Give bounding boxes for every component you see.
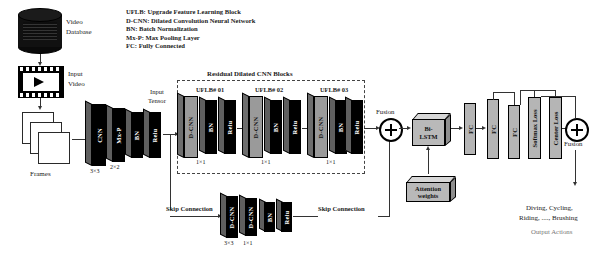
uflb-01-layer-bn-label: BN <box>208 122 215 131</box>
uflb-01-layer-relu-face: Relu <box>224 100 236 154</box>
uflb-01-layer-dcnn-label: D-CNN <box>188 116 195 138</box>
uflb-02-layer-dcnn-label: D-CNN <box>253 116 260 138</box>
stem-block-cnn: CNN <box>92 104 106 166</box>
legend: UFLB: Upgrade Feature Learning Block D-C… <box>126 8 255 51</box>
uflb-02-layer-dcnn: D-CNN <box>249 96 263 158</box>
uflb-01-layer-dcnn: D-CNN <box>184 96 198 158</box>
stem-block-cnn-side <box>85 101 92 166</box>
fc2-to-fc3-top-line <box>493 92 514 93</box>
cylinder-texture <box>23 22 57 40</box>
skip-block-dcnn-2-label: D-CNN <box>248 206 255 228</box>
fusion-2-label: Fusion <box>564 140 583 147</box>
video-database-label-1: Video <box>66 18 83 26</box>
input-video-label-2: Video <box>68 80 85 88</box>
cylinder-top <box>18 8 62 22</box>
uflb-02-layer-bn-label: BN <box>273 122 280 131</box>
softmax-loss-block: Softmax Loss <box>528 97 541 159</box>
uflb-01-layer-dcnn-side <box>177 93 184 158</box>
fc-1-label: FC <box>466 125 473 134</box>
skip-block-relu-label: Relu <box>283 210 290 224</box>
skip-block-relu: Relu <box>281 202 292 232</box>
uflb-03-layer-bn-label: BN <box>338 122 345 131</box>
center-loss-label: Center Loss <box>552 111 559 145</box>
uflb-03-kernel: 1×1 <box>326 159 335 165</box>
attention-weights-face: Attention weights <box>406 182 450 202</box>
softmax-drop <box>534 90 535 97</box>
film-perforations-bottom <box>20 93 62 97</box>
uflb-02-layer-bn-face: BN <box>270 100 282 154</box>
fc2-top-riser <box>493 92 494 100</box>
play-icon <box>34 77 44 87</box>
output-actions-line-1: Diving, Cycling, <box>526 204 573 212</box>
uflb-01-kernel: 1×1 <box>196 159 205 165</box>
output-actions-line-2: Riding, ...., Brushing <box>519 214 578 222</box>
output-actions-caption: Output Actions <box>531 228 572 235</box>
stem-block-relu-face: Relu <box>149 112 161 158</box>
attention-weights-block: Attention weights <box>406 176 450 202</box>
residual-group-title: Residual Dilated CNN Blocks <box>207 70 293 77</box>
input-tensor-label-2: Tensor <box>148 97 166 104</box>
stem-block-mxp: Mx-P <box>112 108 125 162</box>
fc-3-block: FC <box>508 105 520 159</box>
uflb-03-layer-relu-face: Relu <box>351 100 363 154</box>
skip-block-dcnn-1: D-CNN <box>226 196 238 238</box>
fusion2-top-riser <box>575 96 576 118</box>
stem-block-cnn-face: CNN <box>92 104 106 166</box>
skip-block-dcnn-2-kernel: 1×1 <box>243 240 252 246</box>
video-database-label-2: Database <box>66 28 92 36</box>
legend-line-mxp: Mx-P: Max Pooling Layer <box>126 34 255 43</box>
skip-block-dcnn-2-face: D-CNN <box>245 198 257 236</box>
uflb-02-layer-dcnn-face: D-CNN <box>249 96 263 158</box>
bilstm-block-face: Bi- LSTM <box>412 119 445 146</box>
video-database-icon <box>18 8 62 54</box>
video-to-frames-arrow <box>38 106 42 110</box>
fc3-top-drop <box>514 92 515 105</box>
legend-line-bn: BN: Batch Normalization <box>126 25 255 34</box>
input-video-label-1: Input <box>68 70 83 78</box>
skip-right-line-b <box>378 216 390 217</box>
attention-to-bilstm-line <box>428 150 429 174</box>
uflb-01-layer-dcnn-face: D-CNN <box>184 96 198 158</box>
legend-line-uflb: UFLB: Upgrade Feature Learning Block <box>126 8 255 17</box>
stem-block-mxp-label: Mx-P <box>115 127 122 143</box>
fc3-to-loss-riser <box>520 90 521 105</box>
uflb-03-layer-relu: Relu <box>351 100 363 154</box>
frames-label: Frames <box>30 170 51 178</box>
uflb-02-title: UFLB# 02 <box>255 86 283 93</box>
stem-block-cnn-kernel: 3×3 <box>90 168 99 174</box>
skip-block-relu-face: Relu <box>281 202 292 232</box>
stem-block-bn-label: BN <box>134 130 141 139</box>
fusion2-to-output-line <box>575 150 576 184</box>
uflb-02-layer-dcnn-side <box>242 93 249 158</box>
bilstm-block-side <box>445 114 451 146</box>
softmax-to-fusion-line <box>541 96 575 97</box>
attention-label-2: weights <box>418 192 439 199</box>
fc1-to-fc2-arrow <box>482 126 486 130</box>
bilstm-to-fc1-arrow <box>459 126 463 130</box>
uflb-02-kernel: 1×1 <box>261 159 270 165</box>
stem-block-relu: Relu <box>149 112 161 158</box>
uflb-01-layer-relu-label: Relu <box>227 120 234 134</box>
stem-block-cnn-label: CNN <box>96 128 103 143</box>
skip-block-bn-label: BN <box>266 212 273 221</box>
legend-line-dcnn: D-CNN: Dilated Convolution Neural Networ… <box>126 17 255 26</box>
bilstm-block: Bi- LSTM <box>412 113 445 146</box>
uflb-03-layer-dcnn-side <box>307 93 314 158</box>
fusion-1-label: Fusion <box>376 108 395 115</box>
uflb-02-layer-bn: BN <box>270 100 282 154</box>
skip-block-bn-face: BN <box>264 202 275 232</box>
fusion-to-bilstm-arrow <box>407 126 411 130</box>
uflb-02-layer-relu-face: Relu <box>289 100 301 154</box>
fc-1-block: FC <box>464 103 476 155</box>
skip-connection-label-left: Skip Connection <box>166 205 213 212</box>
center-loss-block: Center Loss <box>549 97 562 159</box>
fusion2-to-output-arrow <box>573 182 577 186</box>
skip-left-line <box>170 216 220 217</box>
stem-block-relu-label: Relu <box>152 128 159 142</box>
uflb-03-layer-dcnn-face: D-CNN <box>314 96 328 158</box>
uflb-03-layer-relu-label: Relu <box>354 120 361 134</box>
fc-2-label: FC <box>489 125 496 134</box>
skip-block-dcnn-2: D-CNN <box>245 198 257 236</box>
attention-label-1: Attention <box>415 185 441 192</box>
uflb-01-layer-bn-face: BN <box>205 100 217 154</box>
